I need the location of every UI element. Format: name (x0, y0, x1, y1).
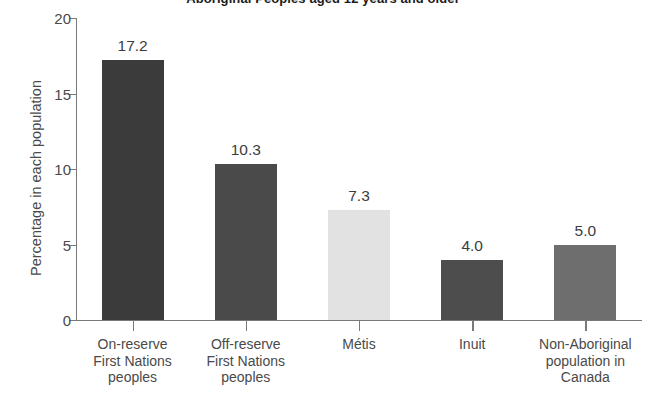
x-tick-mark (585, 320, 586, 331)
y-tick-label: 0 (63, 312, 71, 329)
x-axis-category-line: First Nations (189, 353, 302, 370)
bar-value-label: 17.2 (118, 37, 148, 55)
x-axis-category-line: Canada (529, 369, 642, 386)
bar-value-label: 10.3 (231, 141, 261, 159)
bar-chart: Aboriginal Peoples aged 12 years and old… (0, 0, 646, 400)
y-tick-label: 20 (54, 10, 71, 27)
bar-value-label: 7.3 (348, 187, 370, 205)
x-axis-category-line: peoples (189, 369, 302, 386)
y-tick-label: 5 (63, 236, 71, 253)
x-axis-category-line: Non-Aboriginal (529, 336, 642, 353)
x-axis-category-line: First Nations (76, 353, 189, 370)
y-tick-label: 10 (54, 161, 71, 178)
x-axis-category-label: Métis (302, 336, 415, 353)
x-tick-mark (472, 320, 473, 331)
x-axis-category-line: Off-reserve (189, 336, 302, 353)
x-axis-category-line: Métis (302, 336, 415, 353)
bar-value-label: 4.0 (461, 237, 483, 255)
x-axis-category-label: Off-reserveFirst Nationspeoples (189, 336, 302, 386)
x-tick-mark (133, 320, 134, 331)
x-axis-category-label: Non-Aboriginalpopulation inCanada (529, 336, 642, 386)
x-axis-category-line: peoples (76, 369, 189, 386)
bar: 10.3 (215, 164, 277, 320)
x-axis-category-line: On-reserve (76, 336, 189, 353)
x-axis-category-label: Inuit (416, 336, 529, 353)
bar-value-label: 5.0 (575, 222, 597, 240)
chart-title: Aboriginal Peoples aged 12 years and old… (0, 0, 646, 6)
bar: 4.0 (441, 260, 503, 320)
y-tick-label: 15 (54, 85, 71, 102)
x-axis-category-line: population in (529, 353, 642, 370)
bar: 5.0 (554, 245, 616, 321)
x-axis-category-line: Inuit (416, 336, 529, 353)
x-tick-mark (246, 320, 247, 331)
bar: 7.3 (328, 210, 390, 320)
x-axis-category-label: On-reserveFirst Nationspeoples (76, 336, 189, 386)
plot-area: 05101520 17.210.37.34.05.0 On-reserveFir… (76, 18, 642, 320)
bar: 17.2 (102, 60, 164, 320)
y-axis-title: Percentage in each population (28, 38, 44, 318)
x-tick-mark (359, 320, 360, 331)
